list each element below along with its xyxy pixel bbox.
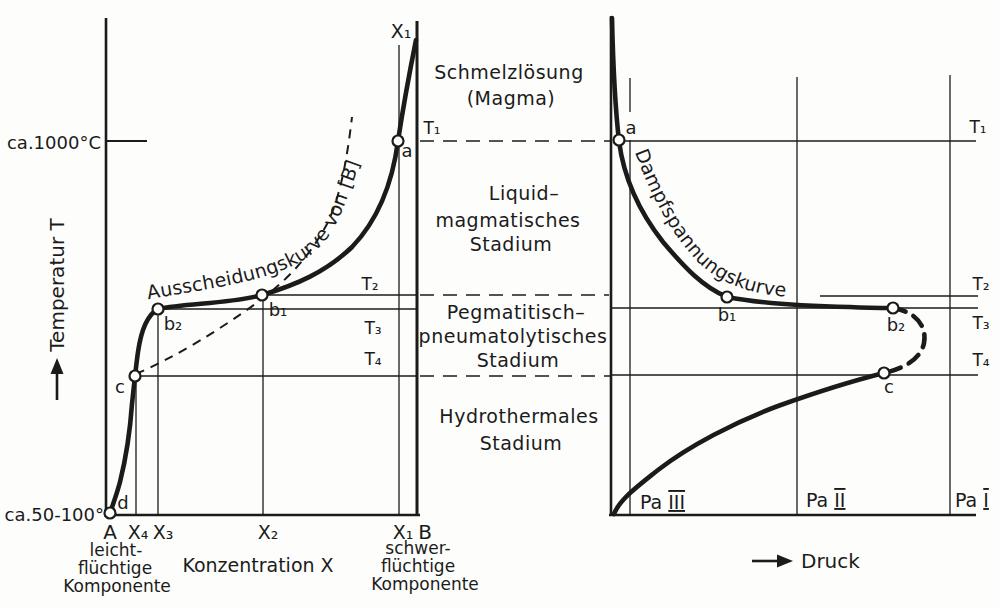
point-d-marker bbox=[105, 508, 116, 519]
stage-melt-line1: Schmelzlösung bbox=[434, 61, 583, 83]
t4-label-left: T₄ bbox=[363, 349, 381, 369]
point-c-left-marker bbox=[130, 371, 141, 382]
stage-pegmatite-line3: Stadium bbox=[477, 349, 560, 371]
stage-liquid-line2: magmatisches bbox=[435, 209, 580, 231]
point-c-left-label: c bbox=[115, 376, 125, 397]
pressure-label-pa2: PaII bbox=[806, 489, 845, 511]
pa2-prefix: Pa bbox=[806, 489, 828, 511]
t2-label-right: T₂ bbox=[971, 274, 989, 294]
stage-pegmatite-line2: pneumatolytisches bbox=[419, 325, 608, 347]
t2-label-left: T₂ bbox=[360, 274, 378, 294]
pa3-prefix: Pa bbox=[640, 491, 662, 513]
t3-label-left: T₃ bbox=[363, 318, 381, 338]
x-axis-title-konzentration: Konzentration X bbox=[182, 554, 333, 576]
left-component-line3: Komponente bbox=[63, 576, 171, 596]
point-c-right-label: c bbox=[884, 376, 894, 397]
right-component-line2: flüchtige bbox=[381, 556, 455, 576]
t1-label-left: T₁ bbox=[422, 118, 440, 138]
point-b1-left-label: b₁ bbox=[269, 299, 288, 320]
pa2-numeral: II bbox=[834, 489, 845, 511]
pa3-numeral: III bbox=[668, 491, 685, 513]
stage-liquid-line3: Stadium bbox=[470, 233, 553, 255]
x-tick-x3: X₃ bbox=[153, 521, 174, 543]
pa1-numeral: I bbox=[983, 489, 989, 511]
solubility-curve-label: Ausscheidungskurve von [B] bbox=[145, 157, 364, 303]
point-b2-right-label: b₂ bbox=[887, 314, 906, 335]
point-b1-left-marker bbox=[257, 290, 268, 301]
stage-liquid-line1: Liquid– bbox=[489, 182, 559, 204]
y-tick-ca1000: ca.1000°C bbox=[7, 132, 101, 153]
stage-hydrothermal-line1: Hydrothermales bbox=[439, 405, 598, 427]
stage-pegmatite-line1: Pegmatitisch– bbox=[447, 301, 586, 323]
vapor-pressure-curve-label: Dampfspannungskurve bbox=[631, 145, 788, 300]
t3-label-right: T₃ bbox=[971, 313, 989, 333]
point-a-left-label: a bbox=[401, 140, 412, 161]
point-b2-right-marker bbox=[888, 303, 899, 314]
up-arrow-icon bbox=[51, 358, 64, 400]
phase-diagram-figure: X₁ ca.1000°C ca.50-100° Temperatur T A X… bbox=[0, 0, 1000, 607]
t1-label-right: T₁ bbox=[968, 117, 986, 137]
diagram-canvas: X₁ ca.1000°C ca.50-100° Temperatur T A X… bbox=[0, 0, 1000, 607]
point-b2-left-label: b₂ bbox=[164, 313, 183, 334]
x-tick-x2: X₂ bbox=[258, 521, 279, 543]
point-b1-right-label: b₁ bbox=[718, 304, 737, 325]
point-b1-right-marker bbox=[722, 292, 733, 303]
left-component-line2: flüchtige bbox=[78, 558, 152, 578]
pressure-label-pa1: PaI bbox=[955, 489, 989, 511]
y-tick-ca50-100: ca.50-100° bbox=[5, 504, 104, 525]
point-a-right-label: a bbox=[625, 117, 636, 138]
right-component-line3: Komponente bbox=[371, 574, 479, 594]
point-b2-left-marker bbox=[153, 304, 164, 315]
x-axis-title-druck: Druck bbox=[801, 549, 860, 573]
point-a-right-marker bbox=[614, 135, 625, 146]
left-component-line1: leicht- bbox=[90, 540, 143, 560]
stage-melt-line2: (Magma) bbox=[467, 87, 556, 109]
right-component-line1: schwer- bbox=[385, 538, 450, 558]
y-axis-title-temperatur: Temperatur T bbox=[45, 218, 69, 353]
t4-label-right: T₄ bbox=[971, 350, 989, 370]
stage-hydrothermal-line2: Stadium bbox=[480, 432, 563, 454]
pa1-prefix: Pa bbox=[955, 489, 977, 511]
right-arrow-icon bbox=[752, 555, 793, 568]
x1-top-label: X₁ bbox=[391, 20, 412, 42]
pressure-label-pa3: PaIII bbox=[640, 491, 685, 513]
point-d-label: d bbox=[117, 492, 128, 513]
right-chart bbox=[609, 16, 978, 515]
